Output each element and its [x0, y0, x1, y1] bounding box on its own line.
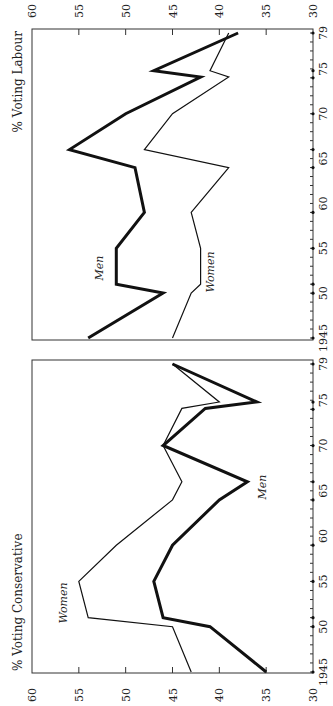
election-marker [311, 148, 314, 151]
year-tick-label: 75 [317, 62, 330, 76]
year-tick-label: 1945 [317, 324, 330, 352]
year-tick-label: 70 [317, 107, 330, 121]
percent-tick-label: 45 [167, 688, 180, 702]
election-marker [311, 408, 314, 411]
election-marker [311, 670, 314, 673]
election-marker [311, 498, 314, 501]
election-marker [311, 247, 314, 250]
men-series-line [154, 364, 266, 672]
year-tick-label: 75 [317, 393, 330, 407]
year-tick-label: 65 [317, 152, 330, 166]
percent-tick-label: 30 [307, 688, 320, 702]
percent-tick-label: 35 [260, 4, 273, 18]
plot-frame [32, 360, 313, 673]
women-series-label: Women [57, 582, 70, 623]
women-series-label: Women [204, 251, 217, 292]
election-marker [311, 69, 314, 72]
percent-tick-label: 30 [307, 4, 320, 18]
election-marker [311, 166, 314, 169]
plot-frame [32, 29, 313, 340]
election-marker [311, 336, 314, 339]
percent-tick-label: 60 [26, 688, 39, 702]
election-marker [311, 616, 314, 619]
year-tick-label: 50 [317, 286, 330, 300]
year-tick-label: 1945 [317, 658, 330, 686]
election-marker [311, 76, 314, 79]
election-marker [311, 31, 314, 34]
year-tick-label: 55 [317, 241, 330, 255]
year-tick-label: 79 [317, 357, 330, 371]
percent-tick-label: 40 [213, 688, 226, 702]
men-series-label: Men [93, 256, 106, 282]
year-tick-label: 50 [317, 620, 330, 634]
election-marker [311, 544, 314, 547]
election-marker [311, 283, 314, 286]
percent-tick-label: 50 [120, 688, 133, 702]
election-marker [311, 444, 314, 447]
election-marker [311, 625, 314, 628]
conservative-chart: 60555045403530194550556065707579% Voting… [11, 357, 330, 702]
election-marker [311, 292, 314, 295]
percent-tick-label: 55 [73, 688, 86, 702]
percent-tick-label: 40 [213, 4, 226, 18]
election-marker [311, 400, 314, 403]
election-marker [311, 362, 314, 365]
axis-title: % Voting Labour [11, 31, 25, 133]
election-marker [311, 480, 314, 483]
labour-chart: 60555045403530194550556065707579% Voting… [11, 4, 330, 352]
percent-tick-label: 60 [26, 4, 39, 18]
year-tick-label: 79 [317, 26, 330, 40]
percent-tick-label: 50 [120, 4, 133, 18]
men-series-label: Men [256, 475, 269, 501]
election-marker [311, 211, 314, 214]
year-tick-label: 70 [317, 439, 330, 453]
percent-tick-label: 55 [73, 4, 86, 18]
year-tick-label: 55 [317, 574, 330, 588]
election-marker [311, 112, 314, 115]
axis-title: % Voting Conservative [11, 534, 25, 672]
year-tick-label: 60 [317, 196, 330, 210]
percent-tick-label: 35 [260, 688, 273, 702]
year-tick-label: 65 [317, 484, 330, 498]
year-tick-label: 60 [317, 529, 330, 543]
percent-tick-label: 45 [167, 4, 180, 18]
voting-by-gender-figure: 60555045403530194550556065707579% Voting… [0, 0, 333, 706]
election-marker [311, 580, 314, 583]
